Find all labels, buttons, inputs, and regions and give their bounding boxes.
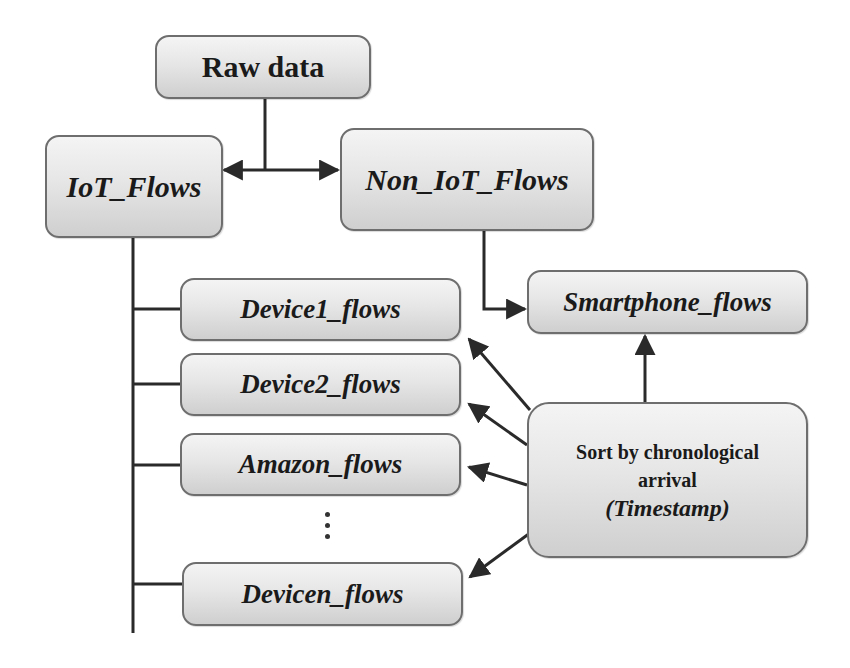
device1-flows-node: Device1_flows bbox=[180, 278, 461, 341]
arrow-sort-to-amazon bbox=[469, 467, 527, 485]
arrow-sort-to-devicen bbox=[470, 533, 530, 577]
raw-data-label: Raw data bbox=[202, 50, 325, 84]
sort-node: Sort by chronological arrival (Timestamp… bbox=[527, 402, 808, 558]
arrow-sort-to-device2 bbox=[469, 404, 527, 445]
devicen-flows-label: Devicen_flows bbox=[242, 579, 404, 610]
amazon-flows-label: Amazon_flows bbox=[239, 449, 403, 480]
non-iot-flows-node: Non_IoT_Flows bbox=[340, 128, 594, 231]
arrow-to-smartphone bbox=[484, 230, 525, 309]
iot-flows-label: IoT_Flows bbox=[66, 170, 201, 204]
sort-line-3: (Timestamp) bbox=[605, 494, 729, 522]
sort-line-1: Sort by chronological bbox=[576, 438, 759, 466]
sort-line-2: arrival bbox=[638, 466, 697, 494]
raw-data-node: Raw data bbox=[155, 35, 371, 99]
devicen-flows-node: Devicen_flows bbox=[182, 562, 463, 626]
smartphone-flows-label: Smartphone_flows bbox=[563, 287, 772, 318]
ellipsis-icon bbox=[322, 512, 332, 539]
non-iot-flows-label: Non_IoT_Flows bbox=[365, 163, 568, 197]
device2-flows-node: Device2_flows bbox=[180, 353, 461, 416]
iot-flows-node: IoT_Flows bbox=[45, 135, 223, 238]
device2-flows-label: Device2_flows bbox=[240, 369, 400, 400]
amazon-flows-node: Amazon_flows bbox=[180, 433, 461, 496]
arrow-sort-to-device1 bbox=[469, 339, 530, 410]
device1-flows-label: Device1_flows bbox=[240, 294, 400, 325]
smartphone-flows-node: Smartphone_flows bbox=[527, 270, 808, 334]
